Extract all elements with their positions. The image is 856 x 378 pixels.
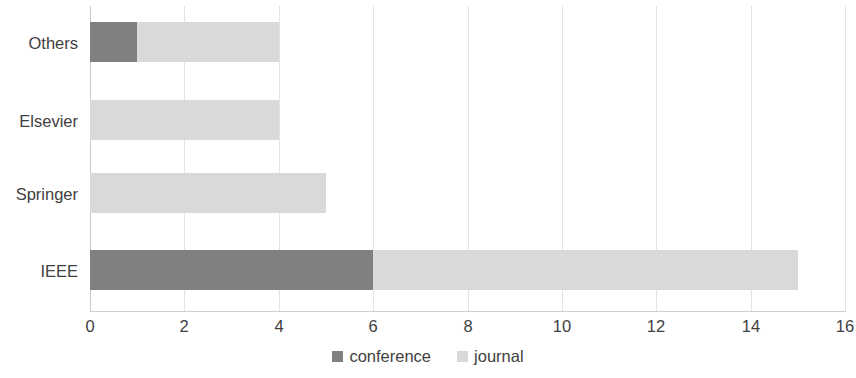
gridline-16	[845, 6, 846, 311]
legend-entry-conference[interactable]: conference	[332, 348, 431, 365]
x-axis-line	[90, 311, 846, 312]
bar-segment-journal	[90, 100, 279, 140]
category-label-ieee: IEEE	[0, 263, 78, 280]
x-tick-label-16: 16	[825, 318, 856, 335]
stacked-bar-chart: Others Elsevier Springer IEEE 0 2 4 6 8 …	[0, 0, 856, 378]
chart-legend: conference journal	[0, 348, 856, 365]
x-tick-label-10: 10	[542, 318, 582, 335]
plot-area	[90, 6, 845, 311]
bar-segment-journal	[90, 173, 326, 213]
legend-swatch-icon	[457, 351, 468, 362]
bar-row-ieee	[90, 250, 798, 290]
x-tick-label-8: 8	[448, 318, 488, 335]
legend-label: journal	[474, 348, 524, 365]
x-tick-label-12: 12	[636, 318, 676, 335]
x-tick-label-14: 14	[731, 318, 771, 335]
bar-row-springer	[90, 173, 326, 213]
x-tick-label-2: 2	[164, 318, 204, 335]
x-tick-label-0: 0	[70, 318, 110, 335]
category-label-others: Others	[0, 35, 78, 52]
x-tick-label-6: 6	[353, 318, 393, 335]
legend-label: conference	[349, 348, 431, 365]
bar-segment-conference	[90, 250, 373, 290]
bar-segment-journal	[373, 250, 798, 290]
bar-row-others	[90, 22, 279, 62]
bar-segment-journal	[137, 22, 279, 62]
x-tick-label-4: 4	[259, 318, 299, 335]
legend-entry-journal[interactable]: journal	[457, 348, 524, 365]
category-label-elsevier: Elsevier	[0, 113, 78, 130]
bar-row-elsevier	[90, 100, 279, 140]
legend-swatch-icon	[332, 351, 343, 362]
bar-segment-conference	[90, 22, 137, 62]
category-label-springer: Springer	[0, 186, 78, 203]
